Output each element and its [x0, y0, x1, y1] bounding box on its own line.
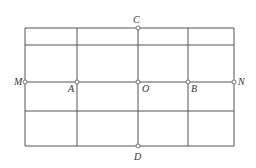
grid-lines: [25, 28, 234, 146]
point-label: B: [191, 83, 197, 94]
points: MAOBNCD: [13, 14, 246, 162]
point-marker-icon: [136, 80, 140, 84]
point-label: D: [133, 151, 142, 162]
point-marker-icon: [232, 80, 236, 84]
point-marker-icon: [186, 80, 190, 84]
point-label: N: [237, 76, 246, 87]
point-marker-icon: [23, 80, 27, 84]
point-label: C: [133, 14, 140, 25]
point-marker-icon: [75, 80, 79, 84]
point-marker-icon: [136, 26, 140, 30]
point-marker-icon: [136, 144, 140, 148]
point-label: M: [13, 76, 23, 87]
grid-diagram: MAOBNCD: [0, 0, 256, 168]
point-label: O: [142, 83, 149, 94]
point-d: D: [133, 144, 142, 162]
point-label: A: [67, 83, 75, 94]
